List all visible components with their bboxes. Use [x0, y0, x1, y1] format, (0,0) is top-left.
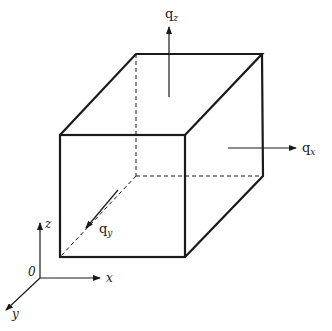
x-axis-label: x	[106, 271, 113, 285]
diagram-canvas: qz qx qy z x y 0	[0, 0, 332, 331]
qz-label: qz	[165, 6, 178, 23]
z-axis-label: z	[44, 217, 52, 231]
top-face-edges	[60, 54, 262, 135]
y-axis	[6, 278, 40, 310]
right-face-edges	[185, 54, 263, 257]
y-axis-label: y	[11, 307, 19, 321]
qy-label: qy	[99, 221, 113, 238]
coordinate-axes	[6, 223, 100, 310]
visible-edges	[60, 54, 263, 257]
hidden-edge-diagonal	[60, 176, 136, 257]
origin-label: 0	[28, 265, 36, 279]
front-face	[60, 135, 185, 257]
qx-label: qx	[302, 140, 315, 157]
cube-diagram: qz qx qy z x y 0	[0, 0, 332, 331]
